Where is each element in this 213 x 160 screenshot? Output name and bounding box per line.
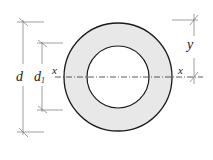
diagram-graphic [0, 0, 213, 160]
inner-diameter-base: d [34, 69, 41, 84]
inner-diameter-subscript: 1 [41, 76, 45, 85]
outer-diameter-label: d [16, 70, 23, 84]
y-distance-label: y [187, 38, 193, 52]
cross-section-diagram: d d1 x x y [0, 0, 213, 160]
inner-diameter-label: d1 [34, 70, 45, 85]
x-axis-label-right: x [178, 65, 183, 76]
y-dimension [172, 14, 198, 84]
x-axis-label-left: x [52, 65, 57, 76]
